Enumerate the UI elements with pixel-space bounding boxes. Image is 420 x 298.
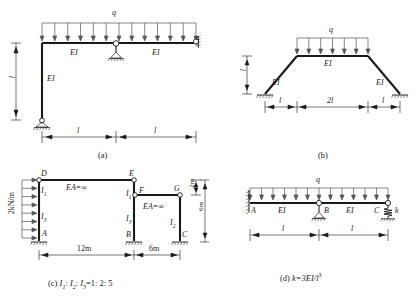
node-A-label-d: A bbox=[251, 206, 256, 215]
node-C-label: C bbox=[182, 230, 187, 239]
left-beam-stiffness-label-a: EI bbox=[70, 48, 78, 57]
left-span-stiffness-label-d: EI bbox=[278, 206, 286, 215]
node-F-label: F bbox=[139, 186, 144, 195]
panel-b-drawing bbox=[210, 0, 420, 150]
dim-right-offset-label-b: l bbox=[382, 96, 384, 105]
right-fixed-support bbox=[392, 95, 409, 98]
dim-right-bay-label: 6m bbox=[149, 244, 159, 253]
node-G-label: G bbox=[174, 184, 180, 193]
dim-rise-b bbox=[242, 56, 252, 94]
support-B-fixed bbox=[126, 242, 143, 245]
panel-b: q EI EI EI l l 2l l (b) bbox=[210, 0, 420, 150]
spring-k-label-d: k bbox=[395, 206, 399, 215]
load-label-b: q bbox=[329, 25, 333, 34]
support-C-fixed bbox=[172, 242, 189, 245]
dim-spans-a bbox=[42, 131, 196, 143]
lower-beam-axial-label: EA=∞ bbox=[143, 202, 164, 211]
node-A-label: A bbox=[42, 229, 47, 238]
load-label-d: q bbox=[316, 175, 320, 184]
load-label-c: 2kN/m bbox=[7, 192, 16, 214]
panel-d: q A B C EI EI k l l (d) k=3EI/l3 bbox=[210, 150, 420, 298]
column-stiffness-label-a: EI bbox=[47, 74, 55, 83]
right-beam-stiffness-label-a: EI bbox=[152, 48, 160, 57]
left-fixed-support bbox=[257, 95, 274, 98]
dim-rise-label-b: l bbox=[239, 69, 248, 71]
support-A-fixed bbox=[246, 190, 249, 214]
right-span-stiffness-label-d: EI bbox=[346, 206, 354, 215]
hinge-E bbox=[132, 178, 137, 183]
node-D-label: D bbox=[41, 169, 47, 178]
right-incline-b bbox=[368, 56, 400, 94]
left-upper-column-label: I1 bbox=[41, 186, 46, 197]
left-lower-column-label: I3 bbox=[41, 212, 46, 223]
mid-lower-column-label: I3 bbox=[126, 214, 131, 225]
load-arrows-c bbox=[22, 178, 37, 240]
dim-column-height-label-a: l bbox=[8, 76, 17, 78]
load-arrows-a bbox=[40, 23, 198, 41]
hinge-F bbox=[133, 193, 138, 198]
right-incline-stiffness-label-b: EI bbox=[376, 78, 384, 87]
caption-c: (c) I1: I2: I3=1: 2: 5 bbox=[48, 278, 113, 290]
dim-left-span-label-a: l bbox=[77, 126, 79, 135]
dim-column-height-a bbox=[11, 43, 21, 120]
panel-a: q EI EI EI l l l (a) bbox=[0, 0, 210, 150]
mid-upper-column-label: I1 bbox=[126, 189, 131, 200]
dim-spans-d bbox=[250, 229, 388, 241]
node-B-label-d: B bbox=[324, 206, 329, 215]
base-roller-support bbox=[34, 118, 51, 130]
dim-left-span-label-d: l bbox=[282, 224, 284, 233]
node-C-label-d: C bbox=[374, 206, 379, 215]
dim-left-offset-label-b: l bbox=[279, 96, 281, 105]
load-arrows-b bbox=[295, 38, 370, 54]
panel-c-drawing bbox=[0, 150, 210, 298]
support-A-fixed bbox=[31, 242, 48, 245]
node-B-label: B bbox=[126, 230, 131, 239]
node-E-label: E bbox=[129, 169, 134, 178]
right-column-label: I2 bbox=[170, 218, 175, 229]
load-arrows-d bbox=[248, 188, 390, 200]
panel-a-drawing bbox=[0, 0, 210, 150]
panel-c: 2kN/m D A E F G B C EA=∞ EA=∞ I1 I3 I1 I… bbox=[0, 150, 210, 298]
dim-top-span-label-b: 2l bbox=[327, 96, 333, 105]
upper-beam-axial-label: EA=∞ bbox=[66, 183, 87, 192]
dim-top-offset-label: 2m bbox=[188, 179, 196, 188]
dim-right-heights-c bbox=[191, 180, 209, 242]
left-incline-b bbox=[265, 56, 297, 94]
load-label-a: q bbox=[112, 8, 116, 17]
dim-right-span-label-d: l bbox=[351, 224, 353, 233]
dim-right-span-label-a: l bbox=[154, 126, 156, 135]
left-incline-stiffness-label-b: EI bbox=[272, 78, 280, 87]
dim-left-bay-label: 12m bbox=[77, 244, 91, 253]
top-beam-stiffness-label-b: EI bbox=[324, 59, 332, 68]
spring-coil-icon bbox=[384, 208, 392, 216]
dim-right-height-label: 6m bbox=[197, 202, 205, 211]
caption-d: (d) k=3EI/l3 bbox=[280, 272, 322, 283]
hinge-D bbox=[37, 178, 42, 183]
hinge-G bbox=[178, 193, 183, 198]
